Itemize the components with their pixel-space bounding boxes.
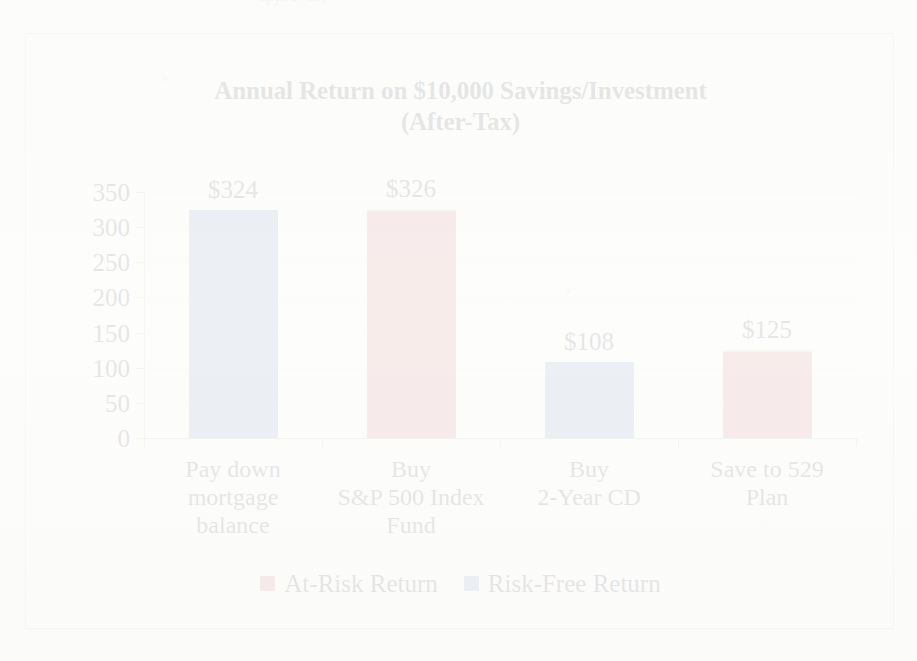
y-axis-tick-label: 0 <box>118 426 131 451</box>
category-label-line: Plan <box>710 483 823 511</box>
chart-legend: At-Risk ReturnRisk-Free Return <box>26 571 895 596</box>
y-axis-tick <box>137 438 144 439</box>
x-axis-category-label: BuyS&P 500 IndexFund <box>337 455 484 539</box>
bar-data-label: $324 <box>208 177 258 202</box>
y-axis-tick-label: 350 <box>93 180 131 205</box>
legend-label: Risk-Free Return <box>488 571 661 596</box>
bar <box>545 362 634 438</box>
chart-title-line-2: (After-Tax) <box>26 106 895 137</box>
legend-label: At-Risk Return <box>284 571 437 596</box>
bar <box>189 210 278 438</box>
y-axis-tick <box>137 333 144 334</box>
x-axis-tick <box>678 438 679 447</box>
category-label-line: mortgage <box>185 483 280 511</box>
category-label-line: Save to 529 <box>710 455 823 483</box>
y-axis-tick-label: 100 <box>93 355 131 380</box>
category-label-line: 2-Year CD <box>537 483 641 511</box>
category-label-line: Fund <box>337 511 484 539</box>
y-axis-tick <box>137 368 144 369</box>
y-axis-line <box>144 192 145 438</box>
x-axis-tick <box>500 438 501 447</box>
bar-data-label: $108 <box>564 329 614 354</box>
category-label-line: balance <box>185 511 280 539</box>
bar-data-label: $326 <box>386 176 436 201</box>
bar <box>723 350 812 438</box>
plot-area: 350300250200150100500 $324$326$108$125 P… <box>144 192 856 438</box>
x-axis-tick <box>322 438 323 447</box>
category-label-line: Buy <box>337 455 484 483</box>
y-axis-tick-label: 50 <box>105 390 130 415</box>
y-axis-tick-label: 150 <box>93 320 131 345</box>
y-axis-tick <box>137 403 144 404</box>
x-axis-category-label: Save to 529Plan <box>710 455 823 511</box>
category-label-line: S&P 500 Index <box>337 483 484 511</box>
x-axis-tick <box>144 438 145 447</box>
legend-item[interactable]: At-Risk Return <box>260 571 437 596</box>
x-axis-category-label: Pay downmortgagebalance <box>185 455 280 539</box>
x-axis-tick <box>856 438 857 447</box>
y-axis-tick-label: 250 <box>93 250 131 275</box>
y-axis-tick <box>137 297 144 298</box>
category-label-line: Buy <box>537 455 641 483</box>
chart-title: Annual Return on $10,000 Savings/Investm… <box>26 75 895 137</box>
bar <box>367 209 456 438</box>
clipped-header-text: approval, <box>258 0 518 9</box>
y-axis-tick <box>137 192 144 193</box>
bar-data-label: $125 <box>742 317 792 342</box>
y-axis-tick-label: 200 <box>93 285 131 310</box>
legend-item[interactable]: Risk-Free Return <box>464 571 661 596</box>
legend-swatch-icon <box>464 576 479 591</box>
y-axis-tick-label: 300 <box>93 215 131 240</box>
legend-swatch-icon <box>260 576 275 591</box>
chart-title-line-1: Annual Return on $10,000 Savings/Investm… <box>214 77 706 104</box>
y-axis-tick <box>137 262 144 263</box>
clipped-header-fragment: approval, <box>258 0 518 4</box>
chart-container: Annual Return on $10,000 Savings/Investm… <box>25 33 894 629</box>
x-axis-category-label: Buy2-Year CD <box>537 455 641 511</box>
category-label-line: Pay down <box>185 455 280 483</box>
y-axis-tick <box>137 227 144 228</box>
